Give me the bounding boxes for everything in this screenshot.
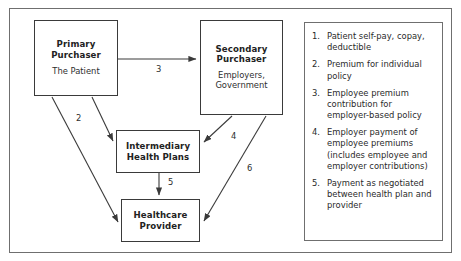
legend-item-text: Employee premium contribution for employ… (327, 88, 422, 120)
node-intermediary-title: Intermediary Health Plans (126, 141, 190, 161)
legend-item: 5.Payment as negotiated between health p… (311, 178, 435, 212)
node-primary-title: Primary Purchaser (51, 39, 101, 59)
legend-item-text: Payment as negotiated between health pla… (327, 178, 432, 210)
node-healthcare-provider: Healthcare Provider (121, 199, 200, 242)
legend-item-number: 5. (312, 178, 320, 189)
edge-4-secondary-to-intermediary (204, 116, 232, 142)
legend-item-text: Employer payment of employee premiums (i… (327, 127, 428, 171)
edge-label-5: 5 (168, 177, 173, 187)
legend-list: 1.Patient self-pay, copay, deductible2.P… (311, 31, 435, 211)
figure-frame: Primary Purchaser The Patient Secondary … (9, 8, 452, 253)
edge-label-2: 2 (76, 113, 81, 123)
node-secondary-purchaser: Secondary Purchaser Employers, Governmen… (200, 20, 283, 115)
legend-item-text: Patient self-pay, copay, deductible (327, 31, 425, 52)
legend-panel: 1.Patient self-pay, copay, deductible2.P… (304, 22, 443, 241)
node-primary-subtitle: The Patient (52, 67, 99, 77)
legend-item: 4.Employer payment of employee premiums … (311, 127, 435, 172)
legend-item: 1.Patient self-pay, copay, deductible (311, 31, 435, 53)
node-secondary-subtitle: Employers, Government (215, 71, 267, 91)
node-secondary-title: Secondary Purchaser (216, 44, 268, 64)
flow-diagram: Primary Purchaser The Patient Secondary … (10, 9, 294, 254)
node-provider-title: Healthcare Provider (134, 210, 188, 230)
edge-label-3: 3 (156, 64, 161, 74)
legend-item: 2.Premium for individual policy (311, 59, 435, 81)
node-primary-purchaser: Primary Purchaser The Patient (34, 20, 118, 96)
legend-item: 3.Employee premium contribution for empl… (311, 88, 435, 122)
legend-item-number: 3. (312, 88, 320, 99)
legend-item-number: 2. (312, 59, 320, 70)
legend-item-text: Premium for individual policy (327, 59, 422, 80)
node-intermediary-health-plans: Intermediary Health Plans (116, 130, 200, 173)
edge-1-primary-to-provider (52, 97, 118, 222)
edge-label-6: 6 (247, 163, 252, 173)
legend-item-number: 1. (312, 31, 320, 42)
edge-2-primary-to-intermediary (92, 97, 113, 141)
edge-label-4: 4 (231, 131, 236, 141)
legend-item-number: 4. (312, 127, 320, 138)
